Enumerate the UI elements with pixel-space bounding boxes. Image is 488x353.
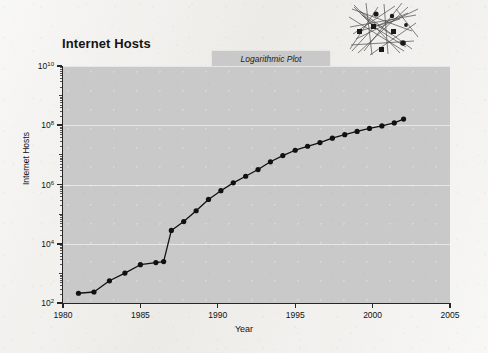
data-point <box>231 180 236 185</box>
data-point <box>91 289 96 294</box>
data-point <box>138 262 143 267</box>
chart-figure: Internet Hosts Logarithmic Plot <box>0 0 488 353</box>
data-point <box>161 259 166 264</box>
data-point <box>181 219 186 224</box>
data-point <box>293 148 298 153</box>
data-point <box>317 140 322 145</box>
data-point <box>342 132 347 137</box>
data-point <box>367 126 372 131</box>
data-point <box>401 116 406 121</box>
data-point <box>280 153 285 158</box>
data-point <box>76 291 81 296</box>
data-point <box>305 144 310 149</box>
data-point <box>268 159 273 164</box>
data-point <box>153 260 158 265</box>
series-markers <box>76 116 406 295</box>
data-point <box>355 129 360 134</box>
data-point <box>206 197 211 202</box>
data-point <box>218 188 223 193</box>
data-point <box>392 120 397 125</box>
data-point <box>379 123 384 128</box>
data-point <box>194 208 199 213</box>
data-point <box>255 167 260 172</box>
data-point <box>169 228 174 233</box>
series-line <box>78 119 403 293</box>
data-point <box>122 270 127 275</box>
data-point <box>107 278 112 283</box>
data-series <box>0 0 488 353</box>
data-point <box>243 174 248 179</box>
data-point <box>330 136 335 141</box>
